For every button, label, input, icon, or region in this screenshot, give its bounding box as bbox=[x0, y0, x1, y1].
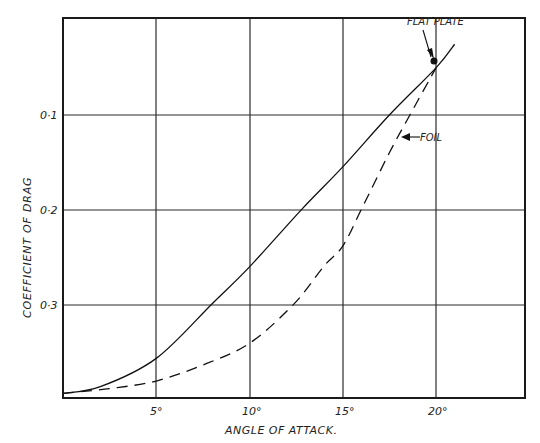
x-axis-label: ANGLE OF ATTACK. bbox=[224, 424, 337, 437]
flat-plate-curve bbox=[63, 44, 455, 393]
flat-plate-label: FLAT PLATE bbox=[407, 16, 465, 27]
x-tick-15: 15° bbox=[335, 405, 355, 418]
flat-plate-point-marker bbox=[431, 58, 438, 65]
y-tick-0.2: 0·2 bbox=[40, 204, 58, 217]
drag-coefficient-chart: FLAT PLATE FOIL 0·1 0·2 0·3 5° 10° 15° 2… bbox=[0, 0, 540, 443]
x-tick-5: 5° bbox=[150, 405, 163, 418]
grid bbox=[63, 18, 525, 398]
foil-label: FOIL bbox=[420, 132, 442, 143]
y-tick-0.1: 0·3 bbox=[40, 299, 58, 312]
plot-frame bbox=[63, 18, 525, 398]
y-tick-0.3: 0·1 bbox=[40, 109, 58, 122]
foil-arrowhead-icon bbox=[401, 133, 410, 141]
flat-plate-arrowhead-icon bbox=[427, 48, 434, 59]
y-axis-label: COEFFICIENT OF DRAG bbox=[21, 177, 34, 318]
x-tick-10: 10° bbox=[242, 405, 262, 418]
x-tick-20: 20° bbox=[428, 405, 448, 418]
